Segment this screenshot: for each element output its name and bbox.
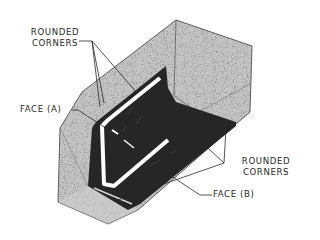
rounded-corners-label-right: ROUNDED CORNERS (236, 156, 296, 178)
rounded-corners-right-line1: ROUNDED (236, 156, 296, 167)
face-a-label: FACE (A) (20, 104, 61, 115)
rounded-corners-top-line1: ROUNDED (29, 27, 81, 38)
rounded-corners-right-line2: CORNERS (236, 167, 296, 178)
rounded-corners-label-top: ROUNDED CORNERS (29, 27, 81, 49)
face-b-label: FACE (B) (213, 189, 254, 200)
rounded-corners-top-line2: CORNERS (29, 38, 81, 49)
